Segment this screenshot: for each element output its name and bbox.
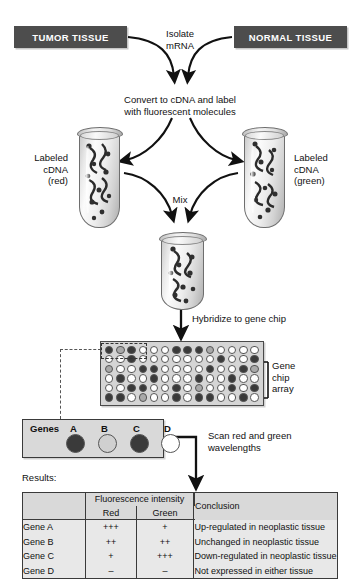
gene-spot-label-d: D [164,423,171,434]
array-spot [161,384,169,392]
array-spot [150,355,158,363]
array-spot [183,355,191,363]
gene-spot-label-b: B [101,423,108,434]
array-spot [172,365,180,373]
array-spot [206,374,214,382]
gene-spot-a [66,434,85,453]
array-spot [250,374,258,382]
header-corner-blank [23,493,86,507]
array-spot [250,365,258,373]
tube-rim-inner [245,131,284,140]
array-spot [127,393,135,401]
gene-spot-b [98,434,117,453]
array-spot [195,384,203,392]
test-tube-mixed [161,232,202,308]
array-selection-box [101,343,147,359]
test-tube-green-cdna [244,127,283,226]
row-conclusion: Unchanged in neoplastic tissue [195,535,338,550]
array-spot [228,393,236,401]
header-red: Red [86,506,137,520]
row-red-intensity: ++ [86,535,137,550]
tube-glass [161,238,204,310]
tube-glass [244,133,285,228]
array-spot [250,393,258,401]
array-spot [228,355,236,363]
array-spot [116,384,124,392]
table-row: Gene D – – Not expressed in either tissu… [23,564,338,579]
row-red-intensity: +++ [86,520,137,535]
gene-spot-label-a: A [70,423,77,434]
table-row: Gene B ++ ++ Unchanged in neoplastic tis… [23,535,338,550]
results-heading: Results: [22,472,56,484]
array-spot [172,384,180,392]
row-gene-name: Gene A [23,520,86,535]
array-spot [239,374,247,382]
array-spot [206,365,214,373]
table-row: Gene A +++ + Up-regulated in neoplastic … [23,520,338,535]
array-spot [161,346,169,354]
row-conclusion: Not expressed in either tissue [195,564,338,579]
array-spot [183,393,191,401]
row-gene-name: Gene B [23,535,86,550]
gene-spot-label-c: C [133,423,140,434]
array-spot [161,374,169,382]
array-spot [239,384,247,392]
header-conclusion: Conclusion [195,493,338,520]
array-callout-line-vertical [60,349,61,419]
header-green: Green [137,506,194,520]
array-spot [183,346,191,354]
array-spot [161,355,169,363]
row-red-intensity: + [86,549,137,564]
array-spot [250,355,258,363]
results-table: Fluorescence intensity Conclusion Red Gr… [22,492,338,579]
normal-tissue-box: NORMAL TISSUE [234,26,347,48]
array-spot [217,384,225,392]
gene-spot-c [130,434,149,453]
header-fluorescence-intensity: Fluorescence intensity [86,493,194,507]
tube-highlight [86,146,90,213]
array-spot [206,355,214,363]
array-spot [217,365,225,373]
tube-rim-inner [80,131,119,140]
array-spot [217,393,225,401]
array-spot [161,393,169,401]
array-spot [116,365,124,373]
row-green-intensity: + [137,520,194,535]
array-spot [206,384,214,392]
tumor-tissue-label: TUMOR TISSUE [32,32,109,43]
array-spot [172,393,180,401]
array-spot [206,393,214,401]
genes-strip-title: Genes [30,423,59,434]
step-convert-cdna: Convert to cDNA and label with fluoresce… [80,94,280,117]
array-callout-line-horizontal [60,349,101,350]
array-spot [127,374,135,382]
array-spot [150,346,158,354]
array-spot [172,355,180,363]
header-blank [23,506,86,520]
array-spot [217,346,225,354]
array-spot [105,393,113,401]
array-spot [105,384,113,392]
array-spot [195,374,203,382]
array-spot [116,374,124,382]
row-green-intensity: – [137,564,194,579]
row-red-intensity: – [86,564,137,579]
array-spot [139,393,147,401]
array-spot [195,393,203,401]
step-scan: Scan red and green wavelengths [208,430,291,453]
row-gene-name: Gene C [23,549,86,564]
tube-highlight [169,251,173,301]
array-spot [183,365,191,373]
array-spot [217,374,225,382]
gene-chip-array-label: Gene chip array [272,360,295,395]
gene-spot-d [161,434,180,453]
normal-tissue-label: NORMAL TISSUE [249,32,333,43]
array-spot [239,346,247,354]
array-spot [150,365,158,373]
array-spot [239,355,247,363]
array-spot [116,393,124,401]
step-hybridize: Hybridize to gene chip [192,313,286,325]
array-spot [127,384,135,392]
tube-rim-inner [162,236,203,245]
array-spot [172,346,180,354]
